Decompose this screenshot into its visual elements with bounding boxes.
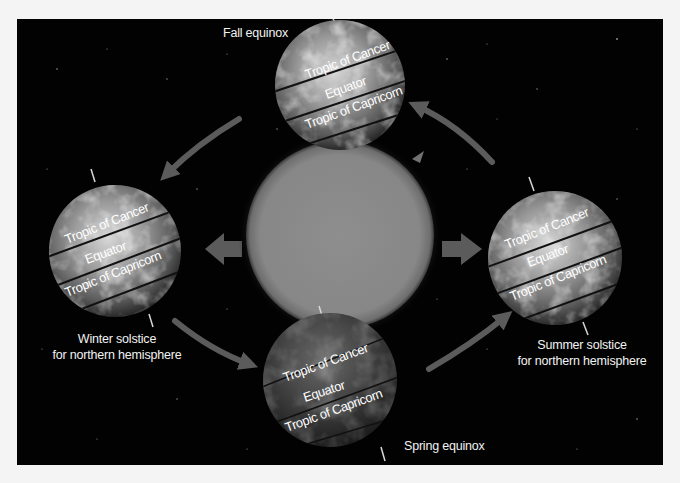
ray-left: [205, 233, 242, 265]
diagram-canvas: Tropic of Cancer Equator Tropic of Capri…: [17, 19, 663, 465]
earth-fall-equinox: Tropic of Cancer Equator Tropic of Capri…: [267, 19, 417, 157]
summer-solstice-label: Summer solstice for northern hemisphere: [507, 337, 657, 369]
earth-winter-solstice: Tropic of Cancer Equator Tropic of Capri…: [42, 169, 192, 327]
earth-summer-solstice: Tropic of Cancer Equator Tropic of Capri…: [482, 177, 632, 335]
arrow-summer-to-fall: [417, 106, 492, 162]
winter-solstice-label-line1: Winter solstice: [42, 331, 192, 347]
ray-right: [442, 233, 482, 265]
spring-equinox-label: Spring equinox: [404, 438, 485, 454]
seasons-diagram-panel: Tropic of Cancer Equator Tropic of Capri…: [17, 19, 663, 465]
sun: [238, 133, 442, 337]
winter-solstice-label-line2: for northern hemisphere: [42, 347, 192, 363]
winter-solstice-label: Winter solstice for northern hemisphere: [42, 331, 192, 363]
arrow-fall-to-winter: [167, 119, 239, 174]
arrow-spring-to-summer: [429, 317, 505, 369]
summer-solstice-label-line1: Summer solstice: [507, 337, 657, 353]
fall-equinox-label: Fall equinox: [223, 25, 288, 41]
earth-spring-equinox: Tropic of Cancer Equator Tropic of Capri…: [257, 306, 407, 461]
summer-solstice-label-line2: for northern hemisphere: [507, 353, 657, 369]
